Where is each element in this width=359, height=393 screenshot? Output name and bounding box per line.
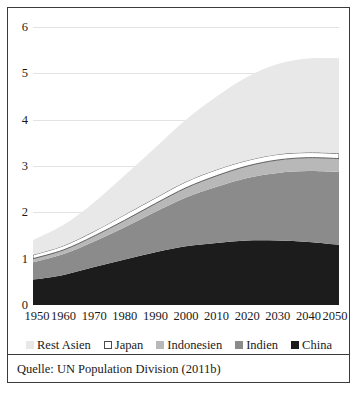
figure-frame: 0123456 19501960197019801990200020102020… xyxy=(7,7,350,383)
legend-swatch-icon xyxy=(291,341,299,349)
x-axis-tick-label: 1980 xyxy=(112,308,137,324)
y-axis-tick-label: 3 xyxy=(22,160,28,173)
legend-swatch-icon xyxy=(156,341,164,349)
legend-swatch-icon xyxy=(235,341,243,349)
y-axis: 0123456 xyxy=(8,27,32,305)
x-axis: 1950196019701980199020002010202020302040… xyxy=(33,308,339,324)
legend-swatch-icon xyxy=(104,341,112,349)
y-axis-tick-label: 5 xyxy=(22,67,28,80)
x-axis-tick-label: 2050 xyxy=(323,308,348,324)
legend-item-rest-asien[interactable]: Rest Asien xyxy=(26,339,91,352)
legend-label: Indonesien xyxy=(167,339,222,352)
source-note: Quelle: UN Population Division (2011b) xyxy=(17,360,221,378)
plot-area xyxy=(33,27,339,305)
source-divider xyxy=(8,354,349,355)
y-axis-tick-label: 1 xyxy=(22,252,28,265)
x-axis-tick-label: 2000 xyxy=(174,308,199,324)
x-axis-tick-label: 1950 xyxy=(25,308,50,324)
legend-item-china[interactable]: China xyxy=(291,339,332,352)
x-axis-tick-label: 2030 xyxy=(265,308,290,324)
legend-label: China xyxy=(302,339,332,352)
legend-swatch-icon xyxy=(26,341,34,349)
x-axis-tick-label: 1990 xyxy=(143,308,168,324)
legend-item-indien[interactable]: Indien xyxy=(235,339,278,352)
y-axis-tick-label: 6 xyxy=(22,21,28,34)
x-axis-tick-label: 1970 xyxy=(82,308,107,324)
x-axis-tick-label: 2010 xyxy=(204,308,229,324)
legend-item-indonesien[interactable]: Indonesien xyxy=(156,339,222,352)
x-axis-tick-label: 2020 xyxy=(235,308,260,324)
stacked-area-chart xyxy=(33,27,339,305)
legend-label: Japan xyxy=(115,339,143,352)
legend-label: Rest Asien xyxy=(37,339,91,352)
legend-label: Indien xyxy=(246,339,278,352)
y-axis-tick-label: 4 xyxy=(22,113,28,126)
y-axis-tick-label: 2 xyxy=(22,206,28,219)
x-axis-tick-label: 1960 xyxy=(51,308,76,324)
chart-legend: Rest AsienJapanIndonesienIndienChina xyxy=(18,335,340,355)
legend-item-japan[interactable]: Japan xyxy=(104,339,143,352)
x-axis-tick-label: 2040 xyxy=(296,308,321,324)
